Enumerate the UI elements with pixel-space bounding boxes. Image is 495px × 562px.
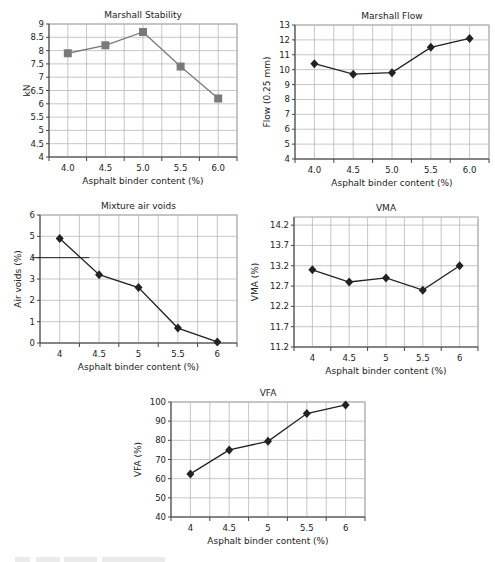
y-tick-label: 13 xyxy=(279,20,290,30)
y-tick-label: 5 xyxy=(285,139,290,149)
x-axis-label: Asphalt binder content (%) xyxy=(207,536,328,546)
y-tick-label: 12.2 xyxy=(270,301,289,311)
y-tick-label: 14.2 xyxy=(270,220,289,230)
square-marker xyxy=(139,28,147,36)
y-tick-label: 60 xyxy=(155,474,166,484)
y-tick-label: 7.5 xyxy=(30,59,44,69)
chart-vma: 11.211.712.212.713.213.714.244.555.56VMA… xyxy=(250,203,478,376)
diamond-marker xyxy=(349,70,357,79)
y-tick-label: 12.7 xyxy=(270,281,289,291)
y-tick-label: 5 xyxy=(39,125,44,135)
x-tick-label: 4.5 xyxy=(222,523,236,533)
x-tick-label: 6 xyxy=(457,353,462,363)
square-marker xyxy=(64,49,72,57)
diamond-marker xyxy=(345,278,353,287)
y-axis-label: Flow (0.25 mm) xyxy=(262,57,272,128)
y-tick-label: 11 xyxy=(279,50,290,60)
y-tick-label: 1 xyxy=(30,317,35,327)
y-tick-label: 4 xyxy=(285,154,290,164)
y-tick-label: 12 xyxy=(279,35,290,45)
y-tick-label: 5 xyxy=(30,231,35,241)
y-tick-label: 8.5 xyxy=(30,32,44,42)
x-tick-label: 5 xyxy=(265,523,270,533)
diamond-marker xyxy=(456,261,464,270)
y-tick-label: 4 xyxy=(39,152,44,162)
y-tick-label: 11.2 xyxy=(270,342,289,352)
x-tick-label: 4 xyxy=(310,353,315,363)
diamond-marker xyxy=(264,437,272,446)
x-tick-label: 4.5 xyxy=(346,165,360,175)
charts-canvas: 44.555.566.577.588.594.04.55.05.56.0Mars… xyxy=(0,0,495,562)
chart-title: Marshall Flow xyxy=(361,11,422,21)
y-tick-label: 0 xyxy=(30,338,35,348)
diamond-marker xyxy=(419,286,427,295)
y-tick-label: 7 xyxy=(285,109,290,119)
x-tick-label: 5 xyxy=(383,353,388,363)
x-tick-label: 6 xyxy=(343,523,348,533)
y-tick-label: 10 xyxy=(279,65,290,75)
y-axis-label: VMA (%) xyxy=(250,263,260,302)
x-axis-label: Asphalt binder content (%) xyxy=(78,362,199,372)
chart-title: Mixture air voids xyxy=(101,201,176,211)
x-axis-label: Asphalt binder content (%) xyxy=(325,366,446,376)
diamond-marker xyxy=(382,273,390,282)
x-tick-label: 5.0 xyxy=(136,163,150,173)
diamond-marker xyxy=(186,469,194,478)
x-tick-label: 4.5 xyxy=(99,163,113,173)
y-tick-label: 6 xyxy=(30,210,35,220)
x-tick-label: 5.5 xyxy=(300,523,314,533)
y-tick-label: 50 xyxy=(155,493,166,503)
square-marker xyxy=(214,94,222,102)
diamond-marker xyxy=(466,34,474,43)
y-tick-label: 6 xyxy=(39,99,44,109)
x-tick-label: 6.0 xyxy=(463,165,477,175)
y-tick-label: 2 xyxy=(30,295,35,305)
x-tick-label: 5.5 xyxy=(416,353,430,363)
x-tick-label: 6.0 xyxy=(211,163,225,173)
x-tick-label: 5.0 xyxy=(385,165,399,175)
y-tick-label: 70 xyxy=(155,455,166,465)
x-tick-label: 5.5 xyxy=(174,163,188,173)
x-tick-label: 4.5 xyxy=(92,349,106,359)
diamond-marker xyxy=(225,445,233,454)
x-axis-label: Asphalt binder content (%) xyxy=(331,178,452,188)
y-tick-label: 90 xyxy=(155,416,166,426)
x-tick-label: 4 xyxy=(57,349,62,359)
y-tick-label: 9 xyxy=(39,19,44,29)
y-axis-label: VFA (%) xyxy=(133,442,143,477)
y-tick-label: 13.7 xyxy=(270,240,289,250)
y-tick-label: 40 xyxy=(155,512,166,522)
y-tick-label: 9 xyxy=(285,80,290,90)
x-tick-label: 4 xyxy=(188,523,193,533)
y-tick-label: 11.7 xyxy=(270,322,289,332)
chart-marshall-flow: 456789101112134.04.55.05.56.0Marshall Fl… xyxy=(262,11,489,188)
y-tick-label: 13.2 xyxy=(270,261,289,271)
x-axis-label: Asphalt binder content (%) xyxy=(82,176,203,186)
chart-vfa: 40506070809010044.555.56VFAAsphalt binde… xyxy=(133,388,366,546)
y-tick-label: 6.5 xyxy=(30,86,44,96)
x-tick-label: 5 xyxy=(136,349,141,359)
x-tick-label: 4.5 xyxy=(342,353,356,363)
square-marker xyxy=(177,63,185,71)
x-tick-label: 4.0 xyxy=(308,165,322,175)
y-tick-label: 80 xyxy=(155,435,166,445)
x-tick-label: 5.5 xyxy=(424,165,438,175)
y-tick-label: 4.5 xyxy=(30,139,44,149)
y-tick-label: 5.5 xyxy=(30,112,44,122)
chart-title: Marshall Stability xyxy=(104,10,182,20)
diamond-marker xyxy=(303,409,311,418)
chart-title: VFA xyxy=(260,388,278,398)
chart-marshall-stability: 44.555.566.577.588.594.04.55.05.56.0Mars… xyxy=(22,10,238,186)
x-tick-label: 4.0 xyxy=(61,163,75,173)
y-tick-label: 6 xyxy=(285,124,290,134)
x-tick-label: 5.5 xyxy=(171,349,185,359)
y-tick-label: 3 xyxy=(30,274,35,284)
y-axis-label: Air voids (%) xyxy=(13,250,23,307)
diamond-marker xyxy=(213,337,221,346)
y-axis-label: kN xyxy=(22,85,32,97)
diamond-marker xyxy=(308,265,316,274)
diamond-marker xyxy=(427,43,435,52)
y-tick-label: 8 xyxy=(285,94,290,104)
x-tick-label: 6 xyxy=(215,349,220,359)
square-marker xyxy=(101,41,109,49)
